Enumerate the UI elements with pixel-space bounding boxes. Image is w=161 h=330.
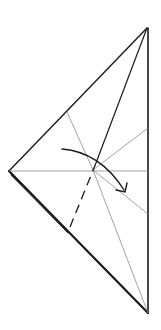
crease-top-center (96, 28, 147, 163)
valley-fold-line (68, 163, 96, 232)
crease-lines (9, 112, 148, 313)
edge-top-left (9, 28, 147, 171)
origami-diagram (0, 0, 161, 330)
crease-upper-perp (67, 112, 93, 170)
edge-bottom-left-layer (11, 175, 68, 233)
fold-arrow-icon (62, 149, 127, 192)
outline (9, 28, 148, 313)
edge-bottom-left (9, 171, 148, 313)
